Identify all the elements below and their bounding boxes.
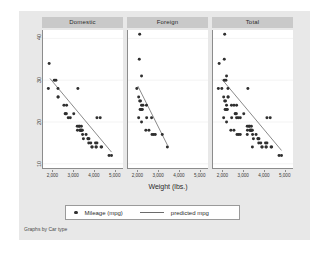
x-tick-label: 4,000: [88, 173, 100, 178]
x-tick-label: 3,000: [237, 173, 249, 178]
x-tick-mark: [137, 170, 138, 172]
panel-plot-area: [127, 30, 208, 169]
x-tick-label: 3,000: [67, 173, 79, 178]
scatter-svg-domestic: [43, 30, 123, 168]
panel-foreign: Foreign: [127, 17, 208, 169]
panel-header-label: Domestic: [42, 17, 123, 28]
panel-header-label: Total: [212, 17, 293, 28]
panel-total: Total: [212, 17, 293, 169]
x-tick-label: 4,000: [258, 173, 270, 178]
x-tick-mark: [222, 170, 223, 172]
y-tick-label: 30: [28, 77, 42, 85]
scatter-svg-foreign: [128, 30, 208, 168]
x-tick-mark: [73, 170, 74, 172]
y-tick-label: 10: [28, 161, 42, 169]
legend-marker-icon: [74, 211, 78, 215]
x-tick-mark: [200, 170, 201, 172]
chart-note: Graphs by Car type: [24, 226, 67, 232]
x-tick-mark: [264, 170, 265, 172]
x-tick-mark: [243, 170, 244, 172]
y-tick-label: 20: [28, 119, 42, 127]
x-ticks-domestic: 2,0003,0004,0005,000: [42, 170, 123, 180]
x-tick-label: 3,000: [152, 173, 164, 178]
panel-plot-area: [212, 30, 293, 169]
scatter-svg-total: [213, 30, 293, 168]
x-tick-label: 5,000: [109, 173, 121, 178]
y-tick-label: 40: [28, 34, 42, 42]
x-tick-mark: [94, 170, 95, 172]
y-axis: 10203040: [28, 30, 42, 169]
chart-screenshot: 10203040 Domestic Foreign Total 2,0003,0…: [0, 0, 321, 253]
x-tick-label: 2,000: [132, 173, 144, 178]
x-tick-mark: [115, 170, 116, 172]
legend-line-icon: [140, 212, 164, 213]
x-ticks-foreign: 2,0003,0004,0005,000: [127, 170, 208, 180]
x-tick-mark: [285, 170, 286, 172]
x-tick-mark: [179, 170, 180, 172]
panel-row: Domestic Foreign Total: [42, 17, 294, 169]
x-tick-label: 5,000: [194, 173, 206, 178]
panel-header-label: Foreign: [127, 17, 208, 28]
legend-label-predicted: predicted mpg: [171, 210, 209, 216]
x-axis-title: Weight (lbs.): [42, 183, 294, 190]
x-tick-label: 2,000: [47, 173, 59, 178]
panel-domestic: Domestic: [42, 17, 123, 169]
panel-plot-area: [42, 30, 123, 169]
legend-label-mileage: Mileage (mpg): [85, 210, 123, 216]
x-ticks-total: 2,0003,0004,0005,000: [212, 170, 293, 180]
x-tick-mark: [158, 170, 159, 172]
x-tick-label: 4,000: [173, 173, 185, 178]
x-axis: 2,0003,0004,0005,000 2,0003,0004,0005,00…: [42, 170, 294, 180]
x-tick-label: 2,000: [217, 173, 229, 178]
chart-legend: Mileage (mpg) predicted mpg: [65, 205, 240, 220]
x-tick-mark: [52, 170, 53, 172]
x-tick-label: 5,000: [279, 173, 291, 178]
